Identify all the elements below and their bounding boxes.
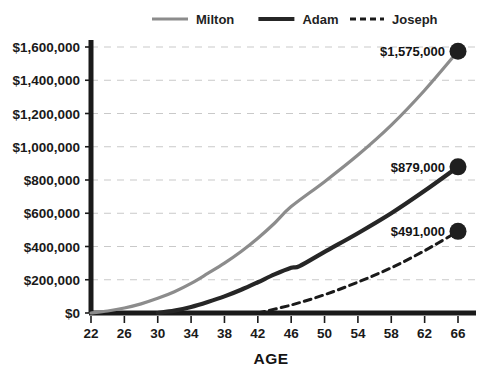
legend-label-adam: Adam [302,12,338,27]
x-tick-label: 50 [317,326,332,341]
data-label-milton: $1,575,000 [380,44,445,59]
x-tick-label: 30 [150,326,165,341]
y-tick-label: $800,000 [24,173,80,188]
x-tick-label: 26 [117,326,133,341]
y-tick-label: $400,000 [24,240,80,255]
line-chart: MiltonAdamJoseph $0$200,000$400,000$600,… [0,0,479,381]
legend-label-milton: Milton [196,12,234,27]
data-label-adam: $879,000 [391,160,445,175]
endpoint-dot-milton [450,43,467,60]
y-tick-label: $1,400,000 [12,73,80,88]
x-tick-label: 66 [450,326,466,341]
chart-canvas: MiltonAdamJoseph $0$200,000$400,000$600,… [0,0,479,381]
x-tick-label: 62 [417,326,432,341]
x-tick-label: 46 [284,326,300,341]
endpoint-dot-joseph [450,223,467,240]
data-label-joseph: $491,000 [391,224,445,239]
y-tick-label: $200,000 [24,273,80,288]
x-tick-label: 34 [184,326,200,341]
y-axis-ticks: $0$200,000$400,000$600,000$800,000$1,000… [12,40,91,321]
y-tick-label: $0 [65,306,80,321]
y-tick-label: $600,000 [24,206,80,221]
x-tick-label: 38 [217,326,233,341]
endpoint-dot-adam [450,158,467,175]
x-tick-label: 22 [83,326,98,341]
y-tick-label: $1,200,000 [12,107,80,122]
y-tick-label: $1,000,000 [12,140,80,155]
legend-label-joseph: Joseph [392,12,438,27]
x-tick-label: 58 [384,326,400,341]
x-axis-title: AGE [253,350,288,367]
x-tick-label: 42 [250,326,265,341]
x-tick-label: 54 [350,326,366,341]
y-tick-label: $1,600,000 [12,40,80,55]
